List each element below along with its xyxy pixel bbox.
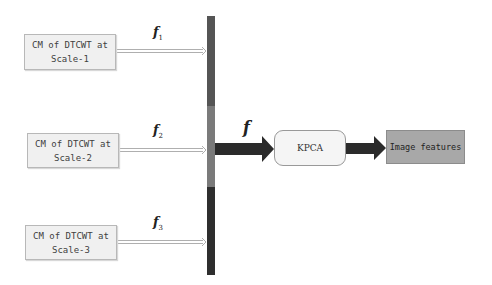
concat-bar-segment-1	[207, 16, 215, 106]
feature-label-f3: f3	[153, 214, 163, 232]
feature-label-f1: f1	[153, 24, 163, 42]
arrow-to-image-features	[346, 136, 386, 160]
kpca-box: KPCA	[274, 130, 346, 166]
image-features-label: Image features	[390, 142, 462, 152]
input-box-scale-3: CM of DTCWT at Scale-3	[25, 225, 117, 260]
kpca-label: KPCA	[297, 143, 323, 153]
concat-bar-segment-3	[207, 187, 215, 275]
feature-index: 3	[159, 224, 163, 232]
arrow-scale-2	[119, 146, 206, 154]
arrow-scale-1	[116, 47, 206, 55]
input-box-line1: CM of DTCWT at	[32, 38, 108, 52]
feature-index: 2	[159, 132, 163, 140]
input-box-scale-1: CM of DTCWT at Scale-1	[24, 34, 116, 70]
input-box-scale-2: CM of DTCWT at Scale-2	[27, 133, 119, 168]
image-features-box: Image features	[386, 130, 465, 164]
input-box-line1: CM of DTCWT at	[35, 137, 111, 151]
feature-label-f2: f2	[153, 122, 163, 140]
input-box-line2: Scale-3	[52, 243, 90, 257]
input-box-line2: Scale-2	[54, 151, 92, 165]
arrow-scale-3	[117, 238, 206, 246]
input-box-line1: CM of DTCWT at	[33, 229, 109, 243]
arrow-to-kpca	[215, 136, 274, 162]
concat-bar-segment-2	[207, 106, 215, 187]
input-box-line2: Scale-1	[51, 52, 89, 66]
combined-feature-label: f	[243, 118, 250, 137]
feature-index: 1	[159, 34, 163, 42]
